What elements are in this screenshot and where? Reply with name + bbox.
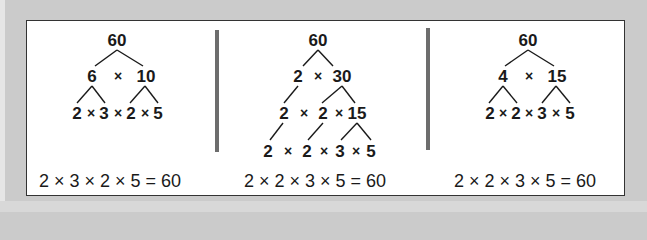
tree3-root: 60 bbox=[519, 31, 538, 50]
tree3-leaf: 2 bbox=[485, 104, 494, 123]
tree2-level2-node: 15 bbox=[348, 104, 367, 123]
tree2-level2-node: 2 bbox=[318, 104, 327, 123]
tree2-leaf: 5 bbox=[366, 142, 375, 161]
tree2-leaf-op: × bbox=[320, 143, 328, 159]
tree2-factor-left: 2 bbox=[293, 67, 302, 86]
tree1-leaf-op: × bbox=[114, 105, 122, 121]
tree3-leaf-op: × bbox=[499, 105, 507, 121]
tree3-leaf-op: × bbox=[552, 105, 560, 121]
tree2-root: 60 bbox=[309, 31, 328, 50]
tree1-leaf: 2 bbox=[72, 104, 81, 123]
tree1-factor-right: 10 bbox=[137, 67, 156, 86]
tree2-leaf: 2 bbox=[263, 142, 272, 161]
tree1-times: × bbox=[114, 68, 122, 84]
tree1-leaf: 2 bbox=[126, 104, 135, 123]
tree2-level2-node: 2 bbox=[279, 104, 288, 123]
tree2-leaf-op: × bbox=[352, 143, 360, 159]
tree1-leaf-op: × bbox=[87, 105, 95, 121]
tree1-root: 60 bbox=[108, 31, 127, 50]
factor-tree-2: 60 2 × 30 2 × 2 × 15 2 × 2 × 3 × 5 bbox=[263, 31, 375, 161]
tree1-factor-left: 6 bbox=[87, 67, 96, 86]
tree3-leaf: 2 bbox=[511, 104, 520, 123]
tree3-leaf-op: × bbox=[525, 105, 533, 121]
tree3-factor-left: 4 bbox=[498, 67, 508, 86]
tree1-leaf-op: × bbox=[141, 105, 149, 121]
tree1-leaf: 3 bbox=[99, 104, 108, 123]
tree2-leaf: 3 bbox=[335, 142, 344, 161]
tree2-leaf-op: × bbox=[284, 143, 292, 159]
factor-tree-1: 60 6 × 10 2 × 3 × 2 × 5 bbox=[72, 31, 162, 123]
tree3-leaf: 5 bbox=[565, 104, 574, 123]
tree2-factor-right: 30 bbox=[333, 67, 352, 86]
tree3-equation: 2 × 2 × 3 × 5 = 60 bbox=[454, 171, 596, 192]
tree1-leaf: 5 bbox=[153, 104, 162, 123]
tree3-leaf: 3 bbox=[537, 104, 546, 123]
tree3-factor-right: 15 bbox=[548, 67, 567, 86]
tree3-times: × bbox=[525, 68, 533, 84]
tree1-equation: 2 × 3 × 2 × 5 = 60 bbox=[39, 171, 181, 192]
tree2-level2-op: × bbox=[300, 105, 308, 121]
tree2-equation: 2 × 2 × 3 × 5 = 60 bbox=[244, 171, 386, 192]
tree2-times: × bbox=[314, 68, 322, 84]
tree2-level2-op: × bbox=[335, 105, 343, 121]
factor-tree-3: 60 4 × 15 2 × 2 × 3 × 5 bbox=[485, 31, 574, 123]
tree2-leaf: 2 bbox=[302, 142, 311, 161]
